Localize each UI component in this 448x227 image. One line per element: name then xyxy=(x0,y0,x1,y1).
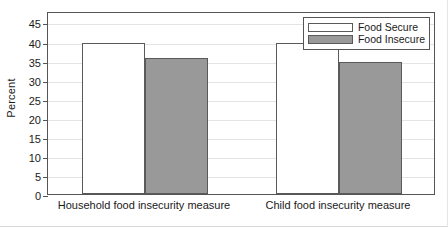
y-tick-label: 40 xyxy=(29,38,41,50)
bar xyxy=(276,43,339,194)
y-tick-mark xyxy=(43,101,48,102)
legend-swatch xyxy=(308,23,353,32)
plot-area: 051015202530354045 Food SecureFood Insec… xyxy=(47,12,435,195)
bar xyxy=(339,62,402,194)
y-tick-label: 25 xyxy=(29,95,41,107)
legend-item: Food Insecure xyxy=(308,34,425,45)
y-tick-label: 10 xyxy=(29,152,41,164)
legend-label: Food Secure xyxy=(358,22,418,33)
y-axis-title-text: Percent xyxy=(5,78,17,117)
y-tick-mark xyxy=(43,44,48,45)
legend-item: Food Secure xyxy=(308,22,425,33)
y-tick-mark xyxy=(43,63,48,64)
y-tick-label: 20 xyxy=(29,114,41,126)
bar xyxy=(82,43,145,194)
y-axis-title: Percent xyxy=(2,0,20,196)
y-tick-label: 30 xyxy=(29,76,41,88)
bar-chart-figure: Percent 051015202530354045 Food SecureFo… xyxy=(0,0,448,227)
y-tick-mark xyxy=(43,24,48,25)
y-tick-mark xyxy=(43,158,48,159)
y-tick-label: 5 xyxy=(35,171,41,183)
y-tick-mark xyxy=(43,177,48,178)
y-tick-label: 35 xyxy=(29,57,41,69)
y-tick-mark xyxy=(43,82,48,83)
legend-swatch xyxy=(308,35,353,44)
y-tick-label: 15 xyxy=(29,133,41,145)
y-tick-mark xyxy=(43,120,48,121)
y-tick-label: 0 xyxy=(35,190,41,202)
y-tick-label: 45 xyxy=(29,18,41,30)
chart-legend: Food SecureFood Insecure xyxy=(303,17,430,50)
legend-label: Food Insecure xyxy=(358,34,425,45)
bar xyxy=(145,58,208,194)
x-axis-category-label: Child food insecurity measure xyxy=(266,199,411,211)
y-tick-mark xyxy=(43,196,48,197)
x-axis-category-label: Household food insecurity measure xyxy=(58,199,230,211)
y-tick-mark xyxy=(43,139,48,140)
